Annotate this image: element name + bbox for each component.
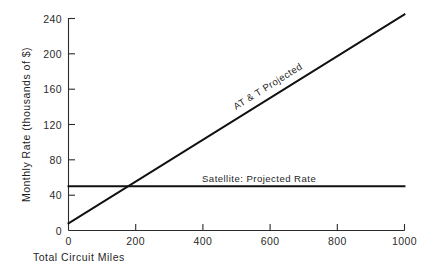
chart-plot-area: 240 200 160 120 80 40 0 0 200 400 600 80… — [0, 0, 435, 267]
y-axis-ticks — [69, 19, 76, 196]
series-label-att: AT & T Projected — [231, 61, 304, 112]
x-tick-label-200: 200 — [126, 235, 145, 247]
x-axis-ticks — [136, 224, 405, 231]
y-tick-label-40: 40 — [50, 189, 62, 201]
x-axis-title: Total Circuit Miles — [33, 251, 125, 263]
y-tick-label-200: 200 — [43, 48, 62, 60]
series-label-satellite: Satellite: Projected Rate — [202, 173, 316, 184]
y-tick-label-160: 160 — [43, 83, 62, 95]
x-tick-label-1000: 1000 — [392, 235, 417, 247]
x-tick-label-600: 600 — [261, 235, 280, 247]
x-tick-label-800: 800 — [328, 235, 347, 247]
x-tick-label-400: 400 — [194, 235, 213, 247]
series-line-att — [69, 14, 405, 223]
y-tick-label-0: 0 — [56, 225, 62, 237]
y-tick-label-120: 120 — [43, 119, 62, 131]
y-tick-label-240: 240 — [43, 13, 62, 25]
y-axis-title: Monthly Rate (thousands of $) — [20, 47, 32, 202]
chart-container: 240 200 160 120 80 40 0 0 200 400 600 80… — [0, 0, 435, 267]
x-tick-label-0: 0 — [65, 235, 71, 247]
y-tick-label-80: 80 — [50, 154, 62, 166]
